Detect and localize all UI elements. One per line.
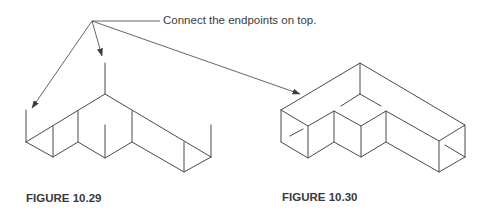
figure-10-30-drawing	[281, 63, 465, 172]
figure-10-29-drawing	[26, 63, 211, 172]
arrow-center-endpoint	[92, 21, 102, 56]
figure-10-30-label: FIGURE 10.30	[282, 191, 357, 203]
callout-text: Connect the endpoints on top.	[163, 14, 316, 27]
arrow-left-endpoint	[32, 21, 92, 108]
arrow-figure-10-30	[92, 21, 300, 94]
callout-arrows	[32, 21, 300, 108]
figure-10-29-label: FIGURE 10.29	[26, 192, 101, 204]
diagram-canvas	[0, 0, 490, 219]
